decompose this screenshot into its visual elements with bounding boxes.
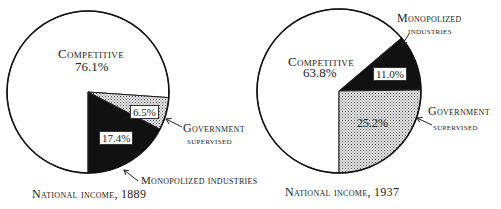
- pie-1937: [257, 9, 421, 173]
- gov-label-1937: Government: [428, 105, 490, 117]
- gov-value-1889: 6.5%: [130, 105, 159, 119]
- mono-arrow-1889: [124, 170, 138, 181]
- mono-label-1889: Monopolized industries: [141, 175, 257, 186]
- gov-value-1937: 25.2%: [357, 117, 388, 129]
- caption-1889: National income, 1889: [32, 188, 146, 200]
- gov-arrow-1937: [417, 118, 432, 125]
- slice-government-supervised: [339, 90, 421, 173]
- mono-label-1937-line2: industries: [408, 26, 452, 36]
- mono-label-1937: Monopolized: [397, 12, 462, 24]
- caption-1937: National income, 1937: [285, 186, 399, 198]
- pie-1889: [7, 11, 169, 173]
- gov-arrow-1889: [166, 119, 182, 127]
- mono-value-1937: 11.0%: [373, 67, 407, 81]
- competitive-value-1937: 63.8%: [303, 67, 337, 79]
- mono-value-1889: 17.4%: [99, 131, 133, 145]
- gov-label-1937-line2: supervised: [433, 122, 478, 132]
- gov-label-1889: Government: [183, 122, 245, 134]
- competitive-value-1889: 76.1%: [75, 61, 109, 73]
- gov-label-1889-line2: supervised: [187, 136, 232, 146]
